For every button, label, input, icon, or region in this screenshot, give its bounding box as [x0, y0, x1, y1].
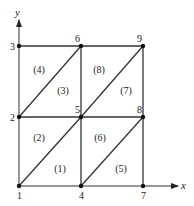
node-label-8: 8 — [137, 104, 142, 115]
element-label-4: (4) — [33, 64, 45, 76]
node-label-3: 3 — [10, 41, 15, 52]
element-label-7: (7) — [120, 85, 132, 97]
element-label-6: (6) — [94, 132, 106, 144]
node-label-7: 7 — [141, 190, 146, 201]
y-axis-label: y — [14, 6, 20, 18]
finite-element-mesh: 123456789 (1)(2)(3)(4)(5)(6)(7)(8) x y — [0, 0, 194, 206]
node-1 — [17, 184, 21, 188]
node-8 — [141, 115, 145, 119]
node-5 — [79, 115, 83, 119]
node-label-1: 1 — [17, 190, 22, 201]
element-label-5: (5) — [115, 163, 127, 175]
node-2 — [17, 115, 21, 119]
node-9 — [141, 44, 145, 48]
element-label-8: (8) — [93, 64, 105, 76]
node-label-6: 6 — [75, 33, 80, 44]
node-6 — [79, 44, 83, 48]
element-label-3: (3) — [57, 85, 69, 97]
node-4 — [79, 184, 83, 188]
element-label-1: (1) — [54, 163, 66, 175]
element-label-2: (2) — [33, 132, 45, 144]
node-7 — [141, 184, 145, 188]
x-axis-label: x — [180, 179, 186, 191]
node-label-5: 5 — [75, 104, 80, 115]
node-label-9: 9 — [137, 33, 142, 44]
node-label-4: 4 — [79, 190, 84, 201]
node-3 — [17, 44, 21, 48]
node-label-2: 2 — [10, 112, 15, 123]
